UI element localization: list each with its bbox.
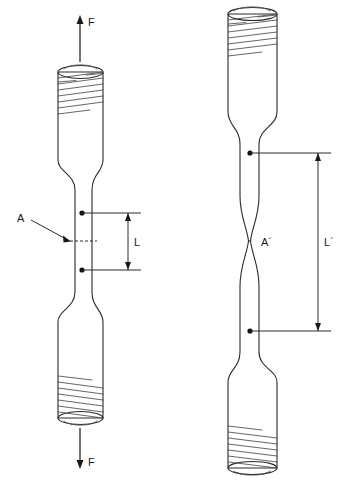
area-label-a-prime: A´ [261,236,272,248]
specimen-left-group: F F A L [17,15,141,469]
dimension-l-prime [315,153,321,331]
tensile-specimen-diagram: F F A L [0,0,347,493]
force-label-top: F [88,16,95,28]
force-label-bottom: F [88,456,95,468]
area-a-leader-arrowhead [63,236,71,243]
dimension-l [125,213,131,270]
area-label-a: A [17,212,25,224]
length-label-l-prime: L´ [324,236,334,248]
force-arrow-bottom [77,428,84,469]
force-arrow-top [77,15,84,62]
length-label-l: L [134,236,140,248]
specimen-left-outline [58,72,103,418]
area-a-leader [31,220,66,239]
specimen-right-group: A´ L´ [228,7,334,475]
